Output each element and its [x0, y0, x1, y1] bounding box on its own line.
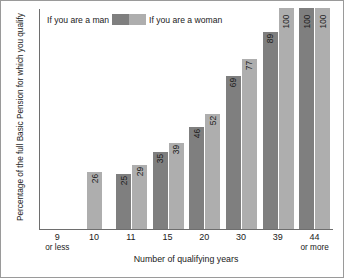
bar-value-15-woman: 39: [172, 145, 181, 154]
legend-swatches: [112, 14, 146, 25]
x-tick-10: 10: [76, 232, 113, 256]
legend-swatch-woman: [129, 14, 146, 25]
y-axis-title: Percentage of the full Basic Pension for…: [3, 1, 37, 233]
bar-group-39: 89 100: [260, 9, 297, 229]
legend-item-man-label: If you are a man: [47, 15, 109, 25]
x-tick-11: 11: [113, 232, 150, 256]
x-tick-44-sub: or more: [296, 243, 333, 253]
bar-group-20: 46 52: [187, 9, 224, 229]
x-tick-20: 20: [186, 232, 223, 256]
bar-group-9: [40, 9, 77, 229]
bar-value-39-man: 89: [266, 34, 275, 43]
legend-swatch-man: [112, 14, 129, 25]
bar-group-10: 26: [77, 9, 114, 229]
bar-39-man: 89: [263, 32, 278, 229]
bar-group-11: 25 29: [113, 9, 150, 229]
x-tick-15: 15: [149, 232, 186, 256]
bar-value-11-woman: 29: [135, 167, 144, 176]
x-axis-tick-labels: 9 or less 10 11 15 20 30 39 44 or more: [39, 232, 333, 256]
bar-value-20-man: 46: [192, 129, 201, 138]
bar-value-10-woman: 26: [90, 173, 99, 182]
bar-value-39-woman: 100: [282, 15, 291, 29]
legend-item-woman-label: If you are a woman: [149, 15, 222, 25]
bar-20-woman: 52: [205, 114, 220, 229]
x-tick-30: 30: [223, 232, 260, 256]
bar-value-44-man: 100: [302, 15, 311, 29]
chart-figure: Percentage of the full Basic Pension for…: [0, 0, 344, 278]
bar-value-30-woman: 77: [245, 61, 254, 70]
chart-legend: If you are a man If you are a woman: [47, 13, 222, 26]
bar-value-30-man: 69: [229, 78, 238, 87]
bar-group-15: 35 39: [150, 9, 187, 229]
bar-30-woman: 77: [242, 59, 257, 229]
bar-44-woman: 100: [315, 8, 330, 229]
x-tick-9-sub: or less: [39, 243, 76, 253]
bar-15-man: 35: [153, 152, 168, 229]
bar-11-woman: 29: [132, 165, 147, 229]
bar-value-15-man: 35: [156, 153, 165, 162]
bar-20-man: 46: [189, 127, 204, 229]
x-tick-44: 44 or more: [296, 232, 333, 256]
bar-10-woman: 26: [87, 172, 102, 230]
x-axis-title: Number of qualifying years: [39, 254, 333, 264]
bar-39-woman: 100: [279, 8, 294, 229]
bar-group-30: 69 77: [223, 9, 260, 229]
bar-value-11-man: 25: [119, 176, 128, 185]
bar-44-man: 100: [299, 8, 314, 229]
bar-value-44-woman: 100: [318, 15, 327, 29]
bar-value-20-woman: 52: [208, 116, 217, 125]
bar-30-man: 69: [226, 76, 241, 229]
x-tick-9-value: 9: [55, 232, 60, 242]
x-tick-44-value: 44: [310, 232, 320, 242]
plot-area: If you are a man If you are a woman 26 2…: [39, 9, 333, 230]
bar-15-woman: 39: [169, 143, 184, 229]
x-tick-39: 39: [260, 232, 297, 256]
bar-group-44: 100 100: [296, 9, 333, 229]
bar-groups: 26 25 29 35 39: [40, 9, 333, 229]
bar-11-man: 25: [116, 174, 131, 229]
x-tick-9: 9 or less: [39, 232, 76, 256]
